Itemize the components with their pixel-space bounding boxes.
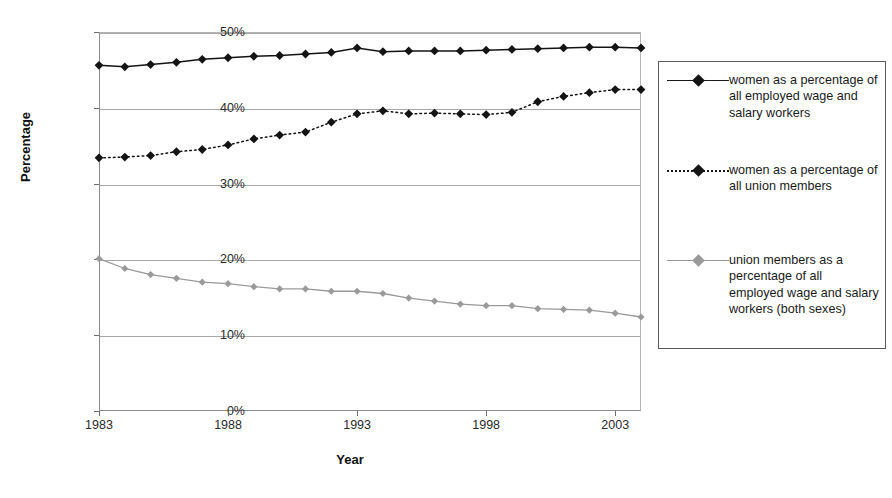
x-axis-tick-mark — [486, 411, 487, 416]
data-point-marker — [121, 265, 128, 272]
data-point-marker — [95, 153, 104, 162]
chart-legend: women as a percentage of all employed wa… — [658, 61, 886, 349]
y-axis-title: Percentage — [18, 62, 33, 182]
legend-key-solid-dark-icon — [667, 73, 729, 89]
data-point-marker — [198, 55, 207, 64]
x-axis-tick-label: 2003 — [601, 418, 629, 432]
data-point-marker — [637, 313, 644, 320]
data-point-marker — [301, 50, 310, 59]
data-point-marker — [611, 85, 620, 94]
data-point-marker — [404, 47, 413, 56]
legend-item[interactable]: women as a percentage of all union membe… — [667, 162, 879, 195]
data-point-marker — [276, 285, 283, 292]
data-point-marker — [275, 131, 284, 140]
data-point-marker — [147, 271, 154, 278]
data-point-marker — [95, 61, 104, 70]
data-point-marker — [405, 294, 412, 301]
data-point-marker — [172, 147, 181, 156]
data-point-marker — [275, 51, 284, 60]
data-point-marker — [612, 310, 619, 317]
data-point-marker — [120, 153, 129, 162]
data-point-marker — [327, 48, 336, 57]
data-point-marker — [327, 118, 336, 127]
data-point-marker — [353, 288, 360, 295]
data-point-marker — [430, 109, 439, 118]
data-point-marker — [430, 47, 439, 56]
data-point-marker — [508, 108, 517, 117]
legend-label: union members as a percentage of all emp… — [729, 252, 879, 318]
chart-container: Percentage 0%10%20%30%40%50% 19831988199… — [0, 0, 892, 498]
data-series — [95, 255, 644, 321]
data-point-marker — [173, 275, 180, 282]
x-axis-tick-mark — [228, 411, 229, 416]
data-point-marker — [560, 306, 567, 313]
series-line — [99, 47, 641, 67]
data-point-marker — [353, 44, 362, 53]
data-point-marker — [199, 279, 206, 286]
data-point-marker — [611, 43, 620, 52]
data-point-marker — [249, 52, 258, 61]
legend-label: women as a percentage of all union membe… — [729, 162, 879, 195]
x-axis-tick-label: 1983 — [85, 418, 113, 432]
data-point-marker — [379, 290, 386, 297]
data-point-marker — [482, 46, 491, 55]
legend-label: women as a percentage of all employed wa… — [729, 72, 879, 121]
data-point-marker — [637, 44, 646, 53]
data-point-marker — [559, 44, 568, 53]
data-point-marker — [404, 109, 413, 118]
series-line — [99, 90, 641, 158]
legend-item[interactable]: women as a percentage of all employed wa… — [667, 72, 879, 121]
data-point-marker — [301, 128, 310, 137]
legend-diamond-icon — [692, 254, 705, 267]
series-line — [99, 259, 641, 317]
data-point-marker — [585, 88, 594, 97]
data-point-marker — [328, 288, 335, 295]
data-point-marker — [95, 255, 102, 262]
x-axis-tick-mark — [99, 411, 100, 416]
x-axis-tick-label: 1993 — [343, 418, 371, 432]
data-point-marker — [457, 301, 464, 308]
data-point-marker — [559, 92, 568, 101]
data-point-marker — [198, 145, 207, 154]
data-point-marker — [637, 85, 646, 94]
x-axis-tick-mark — [615, 411, 616, 416]
data-point-marker — [250, 283, 257, 290]
legend-diamond-icon — [692, 74, 705, 87]
data-point-marker — [224, 53, 233, 62]
data-series-layer — [99, 32, 641, 411]
data-point-marker — [120, 62, 129, 71]
data-point-marker — [483, 302, 490, 309]
data-point-marker — [456, 109, 465, 118]
data-point-marker — [533, 97, 542, 106]
legend-key-solid-gray-icon — [667, 253, 729, 269]
x-axis-tick-label: 1988 — [214, 418, 242, 432]
data-point-marker — [249, 134, 258, 143]
data-point-marker — [585, 43, 594, 52]
data-point-marker — [586, 307, 593, 314]
data-point-marker — [456, 47, 465, 56]
data-point-marker — [172, 58, 181, 67]
legend-diamond-icon — [692, 164, 705, 177]
data-point-marker — [379, 106, 388, 115]
data-point-marker — [224, 280, 231, 287]
x-axis-tick-label: 1998 — [472, 418, 500, 432]
legend-item[interactable]: union members as a percentage of all emp… — [667, 252, 879, 318]
data-point-marker — [534, 305, 541, 312]
x-axis-tick-mark — [357, 411, 358, 416]
data-point-marker — [431, 297, 438, 304]
data-point-marker — [146, 151, 155, 160]
data-point-marker — [508, 302, 515, 309]
data-point-marker — [482, 110, 491, 119]
data-point-marker — [508, 45, 517, 54]
data-point-marker — [379, 47, 388, 56]
data-point-marker — [533, 44, 542, 53]
data-series — [95, 43, 646, 72]
data-point-marker — [224, 141, 233, 150]
data-point-marker — [146, 60, 155, 69]
data-series — [95, 85, 646, 162]
legend-key-dotted-dark-icon — [667, 163, 729, 179]
data-point-marker — [353, 109, 362, 118]
data-point-marker — [302, 285, 309, 292]
x-axis-title: Year — [0, 452, 700, 467]
